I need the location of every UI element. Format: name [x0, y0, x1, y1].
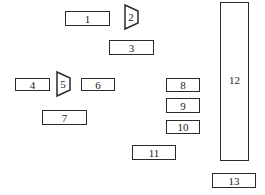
- trapezoid-5-label: 5: [57, 78, 69, 90]
- trapezoid-2-label: 2: [125, 11, 137, 23]
- trapezoid-layer: [0, 0, 265, 195]
